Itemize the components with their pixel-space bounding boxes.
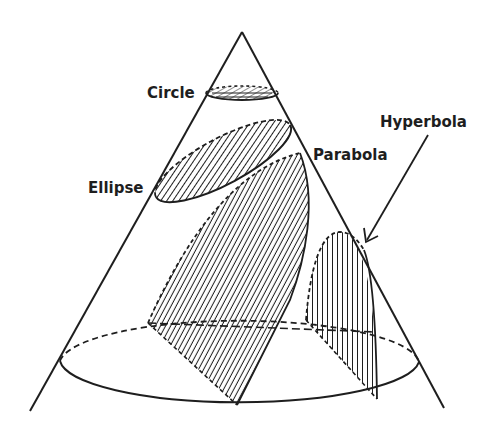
label-circle: Circle [147,86,195,101]
label-ellipse: Ellipse [88,181,144,196]
label-parabola: Parabola [313,148,388,163]
label-hyperbola: Hyperbola [380,115,467,130]
circle-section [206,86,278,100]
conic-sections-diagram [0,0,501,436]
hyperbola-section [306,232,377,399]
